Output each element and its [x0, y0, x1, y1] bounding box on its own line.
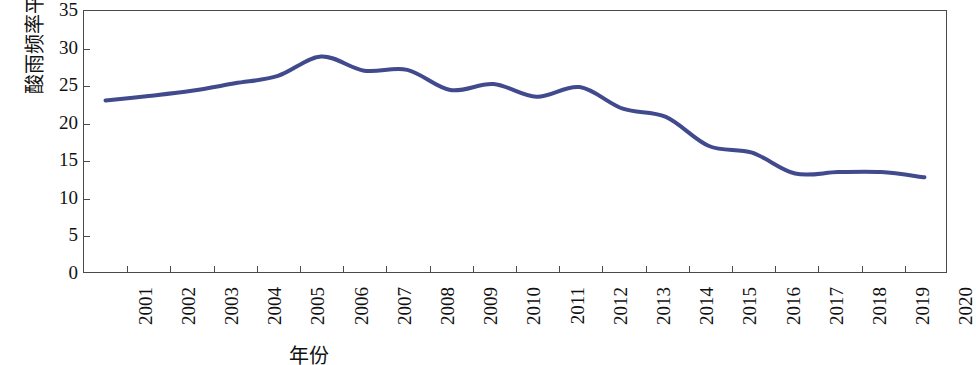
y-axis-tick-label: 30 [40, 38, 78, 57]
y-axis-title-container: 酸雨频率平均值/% [0, 0, 30, 285]
x-axis-tick-mark [386, 266, 387, 272]
y-axis-tick-label: 35 [40, 0, 78, 19]
x-axis-tick-mark [473, 266, 474, 272]
x-axis-tick-mark [170, 266, 171, 272]
y-axis-tick-labels: 05101520253035 [30, 0, 78, 290]
x-axis-title: 年份 [289, 340, 329, 365]
x-axis-tick-mark [127, 266, 128, 272]
y-axis-tick-label: 10 [40, 188, 78, 207]
x-axis-tick-mark [862, 266, 863, 272]
y-axis-tick-mark [84, 49, 90, 50]
y-axis-tick-label: 5 [40, 225, 78, 244]
plot-area [83, 10, 947, 273]
y-axis-tick-label: 0 [40, 263, 78, 282]
x-axis-tick-mark [257, 266, 258, 272]
x-axis-tick-mark [516, 266, 517, 272]
x-axis-tick-mark [646, 266, 647, 272]
series-line-path [106, 56, 925, 177]
x-axis-tick-mark [430, 266, 431, 272]
y-axis-tick-label: 20 [40, 113, 78, 132]
x-axis-tick-mark [343, 266, 344, 272]
x-axis-tick-mark [775, 266, 776, 272]
y-axis-tick-mark [84, 86, 90, 87]
y-axis-tick-mark [84, 124, 90, 125]
x-axis-title-container: 年份 [0, 340, 948, 365]
y-axis-tick-label: 15 [40, 150, 78, 169]
x-axis-tick-label: 2020 [956, 287, 976, 349]
x-axis-tick-mark [214, 266, 215, 272]
x-axis-tick-mark [689, 266, 690, 272]
y-axis-tick-mark [84, 236, 90, 237]
x-axis-tick-mark [300, 266, 301, 272]
x-axis-tick-mark [818, 266, 819, 272]
x-axis-tick-labels: 2001200220032004200520062007200820092010… [83, 273, 947, 335]
y-axis-tick-mark [84, 161, 90, 162]
x-axis-tick-mark [559, 266, 560, 272]
x-axis-tick-mark [602, 266, 603, 272]
x-axis-tick-mark [732, 266, 733, 272]
x-axis-tick-mark [905, 266, 906, 272]
y-axis-tick-mark [84, 199, 90, 200]
y-axis-tick-label: 25 [40, 75, 78, 94]
series-line-svg [84, 11, 946, 272]
